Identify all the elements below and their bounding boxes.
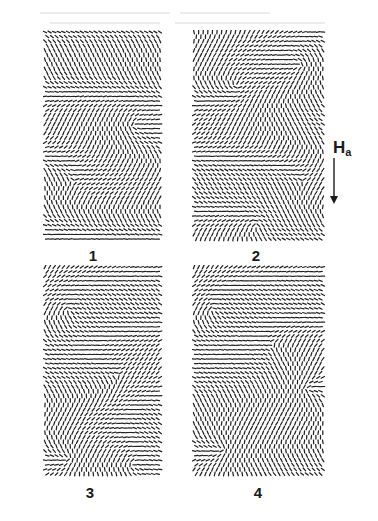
field-label-ha: Ha	[333, 139, 351, 156]
bleed-through-text	[0, 0, 378, 26]
panel-2	[192, 30, 326, 246]
arrow-down-icon	[327, 158, 341, 206]
panel-label-4: 4	[254, 485, 262, 500]
panel-label-2: 2	[252, 248, 260, 263]
panel-label-3: 3	[86, 485, 94, 500]
director-field	[43, 265, 163, 481]
director-field	[192, 265, 326, 481]
field-symbol: H	[333, 138, 345, 157]
panel-1	[43, 30, 163, 246]
panel-label-1: 1	[89, 248, 97, 263]
director-field	[43, 30, 163, 246]
panel-3	[43, 265, 163, 481]
panel-4	[192, 265, 326, 481]
field-subscript: a	[345, 146, 351, 158]
director-field	[192, 30, 326, 246]
figure: 1 2 3 4 Ha	[0, 0, 378, 521]
